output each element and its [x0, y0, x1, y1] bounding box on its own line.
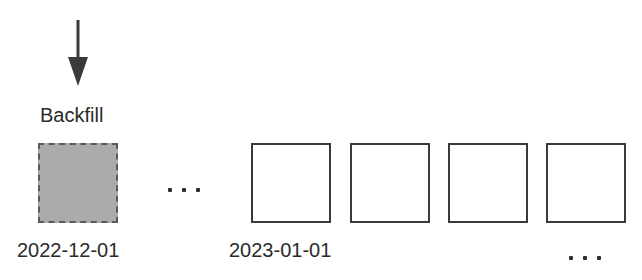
ellipsis-trailing [569, 256, 601, 260]
ellipsis-between [168, 188, 200, 192]
backfill-label: Backfill [40, 104, 103, 126]
ellipsis-dot [196, 188, 200, 192]
arrow-down-icon [66, 18, 90, 88]
backfill-box [38, 143, 118, 223]
ellipsis-dot [597, 256, 601, 260]
partition-box-2 [350, 143, 430, 223]
date-label-backfill: 2022-12-01 [17, 239, 119, 261]
ellipsis-dot [583, 256, 587, 260]
ellipsis-dot [168, 188, 172, 192]
date-label-start: 2023-01-01 [229, 239, 331, 261]
ellipsis-dot [569, 256, 573, 260]
ellipsis-dot [182, 188, 186, 192]
partition-box-1 [251, 143, 331, 223]
partition-box-4 [546, 143, 626, 223]
partition-box-3 [448, 143, 528, 223]
